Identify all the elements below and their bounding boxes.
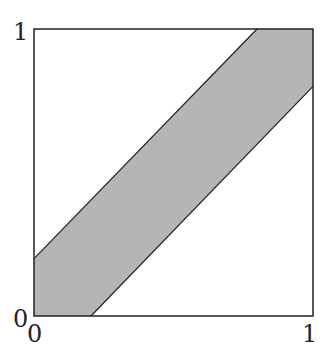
- y-label-top: 1: [13, 20, 28, 44]
- band-diagram: [0, 0, 327, 360]
- x-label-left: 0: [27, 322, 42, 346]
- x-label-right: 1: [302, 322, 317, 346]
- y-label-bottom: 0: [13, 307, 28, 331]
- shaded-band: [34, 29, 313, 316]
